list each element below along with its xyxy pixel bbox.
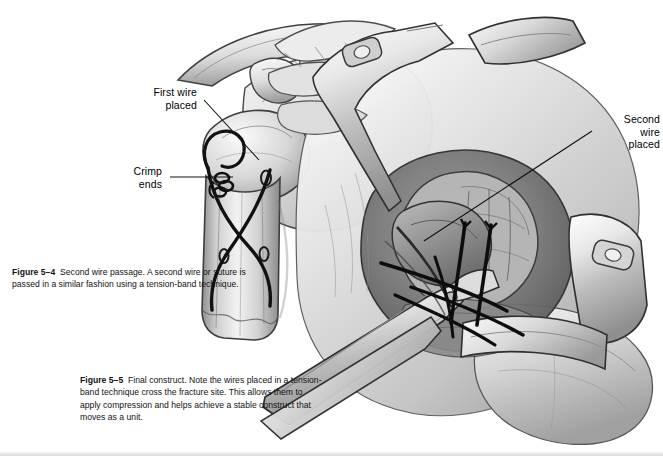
scan-edge-artifact <box>0 451 663 456</box>
figure-5-4-label: Figure 5–4 <box>12 267 55 277</box>
figure-page: First wire placed Crimp ends Second wire… <box>0 0 663 456</box>
annotation-crimp-ends: Crimp ends <box>100 165 162 190</box>
figure-5-5-caption: Figure 5–5 Final construct. Note the wir… <box>80 374 324 424</box>
figure-5-5-label: Figure 5–5 <box>80 375 123 385</box>
figure-5-4-caption: Figure 5–4 Second wire passage. A second… <box>12 266 248 291</box>
annotation-first-wire-placed: First wire placed <box>100 86 197 111</box>
annotation-second-wire-placed: Second wire placed <box>596 113 660 151</box>
